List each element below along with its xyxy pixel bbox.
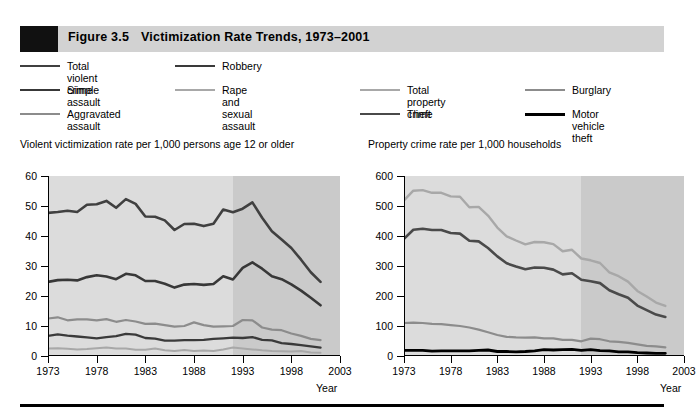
y-tick-label: 30 [7,260,37,272]
x-tick [48,356,49,363]
x-tick [97,356,98,363]
figure-title: Figure 3.5Victimization Rate Trends, 197… [68,30,370,44]
x-tick-label: 1978 [85,365,108,377]
line-robbery [48,334,321,348]
x-axis-title-right: Year [660,382,681,394]
y-tick-label: 400 [363,230,393,242]
y-tick-label: 50 [7,200,37,212]
plot-background-right [404,176,684,356]
y-tick-label: 40 [7,230,37,242]
x-tick [291,356,292,363]
x-tick-label: 2003 [672,365,695,377]
legend-swatch-motor-vehicle-theft [525,113,565,116]
y-tick [397,296,404,297]
footer-divider [20,404,664,407]
plot-area-left: 0102030405060197319781983198819931998200… [48,176,340,356]
figure-title-text: Victimization Rate Trends, 1973–2001 [141,30,370,44]
plot-background-left [48,176,340,356]
legend: Total violent crimeRobberySimple assault… [20,60,670,132]
y-tick-label: 0 [7,350,37,362]
x-tick [404,356,405,363]
x-tick [497,356,498,363]
x-tick-label: 1973 [36,365,59,377]
x-tick-label: 1983 [486,365,509,377]
panel-right-subtitle: Property crime rate per 1,000 households [368,138,698,151]
y-tick-label: 600 [363,170,393,182]
x-tick [684,356,685,363]
y-axis-right [404,176,405,356]
y-tick-label: 300 [363,260,393,272]
legend-label: Burglary [572,84,611,96]
y-tick-label: 10 [7,320,37,332]
x-tick-label: 1988 [532,365,555,377]
series-layer-left [48,176,340,356]
line-simple-assault [48,262,321,305]
x-tick [145,356,146,363]
legend-label: Robbery [222,60,262,72]
line-rape-and-sexual-assault [48,348,321,353]
y-tick-label: 60 [7,170,37,182]
line-total-property-crime [404,190,665,306]
legend-swatch-simple-assault [20,89,60,91]
legend-swatch-robbery [175,65,215,67]
y-tick [41,296,48,297]
x-tick-label: 1988 [182,365,205,377]
y-tick [41,326,48,327]
y-tick [41,236,48,237]
y-tick [41,266,48,267]
legend-label: Theft [407,108,431,120]
y-tick [397,206,404,207]
y-tick [397,326,404,327]
y-tick [397,266,404,267]
y-tick-label: 0 [363,350,393,362]
legend-swatch-aggravated-assault [20,113,60,115]
legend-swatch-total-property-crime [360,89,400,91]
y-tick [41,356,48,357]
x-tick [340,356,341,363]
legend-swatch-burglary [525,89,565,91]
x-axis-title-left: Year [316,382,337,394]
line-total-violent-crime [48,199,321,282]
y-tick-label: 20 [7,290,37,302]
y-tick-label: 100 [363,320,393,332]
legend-swatch-total-violent-crime [20,65,60,67]
y-tick [397,356,404,357]
x-tick-label: 2003 [328,365,351,377]
y-tick [397,236,404,237]
legend-label: Aggravated assault [67,108,121,132]
legend-label: Simple assault [67,84,100,108]
x-tick-label: 1978 [439,365,462,377]
x-tick [243,356,244,363]
x-tick [544,356,545,363]
y-tick [397,176,404,177]
x-tick-label: 1998 [280,365,303,377]
line-burglary [404,323,665,348]
figure-number: Figure 3.5 [68,30,129,44]
line-motor-vehicle-theft [404,349,665,353]
legend-swatch-rape-and-sexual-assault [175,89,215,91]
y-tick-label: 200 [363,290,393,302]
panel-left-subtitle: Violent victimization rate per 1,000 per… [20,138,350,151]
y-axis-left [48,176,49,356]
x-tick [194,356,195,363]
x-tick-label: 1998 [626,365,649,377]
legend-swatch-theft [360,113,400,115]
x-tick [591,356,592,363]
legend-label: Rape and sexual assault [222,84,255,132]
x-tick [637,356,638,363]
series-layer-right [404,176,684,356]
x-tick-label: 1993 [579,365,602,377]
title-marker-square [20,26,58,52]
x-tick [451,356,452,363]
x-tick-label: 1993 [231,365,254,377]
x-tick-label: 1983 [134,365,157,377]
y-tick [41,206,48,207]
x-tick-label: 1973 [392,365,415,377]
y-tick-label: 500 [363,200,393,212]
plot-area-right: 0100200300400500600197319781983198819931… [404,176,684,356]
y-tick [41,176,48,177]
